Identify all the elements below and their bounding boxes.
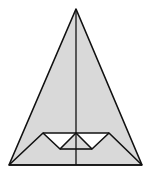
folded-triangle-diagram <box>0 0 151 173</box>
